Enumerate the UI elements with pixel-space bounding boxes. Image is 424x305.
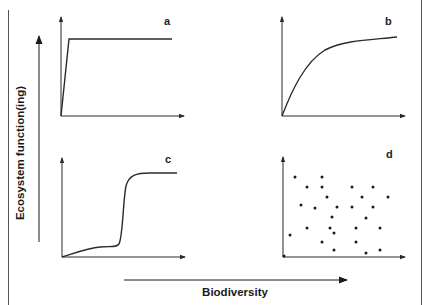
panel-a-label: a [164, 15, 171, 27]
panel-d-scatter-points [283, 176, 390, 258]
y-axis-title: Ecosystem function(ing) [14, 86, 26, 220]
x-axis-title: Biodiversity [202, 286, 268, 298]
panel-c-curve [62, 173, 177, 257]
biodiversity-ecosystem-function-figure: Ecosystem function(ing) Biodiversity a b… [0, 0, 424, 305]
panel-b-curve [282, 37, 397, 116]
panel-a: a [61, 15, 184, 116]
panel-b-label: b [385, 15, 392, 27]
panel-c: c [62, 153, 185, 257]
panel-b: b [282, 15, 405, 116]
panel-c-label: c [165, 153, 171, 165]
panel-d: d [283, 148, 406, 258]
panel-d-label: d [386, 148, 393, 160]
panel-a-curve [61, 39, 172, 116]
